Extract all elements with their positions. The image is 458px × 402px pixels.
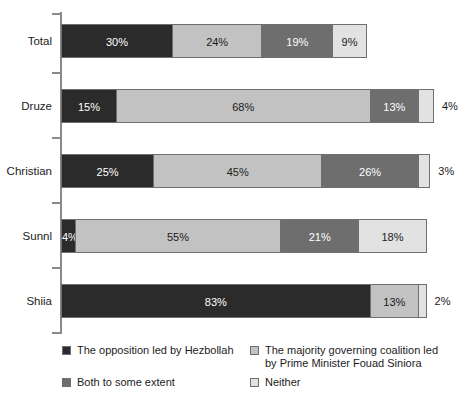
bar-segment: 21% <box>281 219 359 253</box>
bar-segment-value: 18% <box>359 220 425 253</box>
bar-segment: 55% <box>76 219 281 253</box>
chart-legend: The opposition led by HezbollahThe major… <box>0 340 458 402</box>
bar-segment-value: 26% <box>322 155 418 188</box>
bar-track: 4%55%21%18% <box>61 219 427 253</box>
bar-segment-value-outside: 2% <box>435 284 451 318</box>
legend-item-label: Both to some extent <box>77 376 175 389</box>
y-axis-tick-0 <box>52 13 61 15</box>
y-axis-tick-5 <box>52 332 61 334</box>
category-label-shiia: Shiia <box>0 284 52 318</box>
bar-segment-value-outside: 4% <box>442 89 458 123</box>
legend-item[interactable]: The opposition led by Hezbollah <box>62 344 242 357</box>
bar-segment-value: 24% <box>173 25 262 58</box>
bar-segment-value: 4% <box>62 220 75 253</box>
bar-segment-value: 13% <box>371 90 418 123</box>
y-axis-tick-3 <box>52 202 61 204</box>
bar-segment-value: 68% <box>117 90 370 123</box>
bar-track: 30%24%19%9% <box>61 24 367 58</box>
bar-segment: 45% <box>154 154 322 188</box>
bar-segment-value: 30% <box>62 25 172 58</box>
bar-segment: 4% <box>61 219 76 253</box>
bar-segment <box>419 89 434 123</box>
category-label-total: Total <box>0 24 52 58</box>
bar-row: Druze15%68%13%4% <box>0 89 458 123</box>
bar-segment-value: 21% <box>281 220 358 253</box>
stacked-bar-chart: Total30%24%19%9%Druze15%68%13%4%Christia… <box>0 0 458 402</box>
bar-segment-value-outside: 3% <box>438 154 454 188</box>
bar-segment: 30% <box>61 24 173 58</box>
bar-segment: 24% <box>173 24 263 58</box>
legend-swatch-majority <box>250 346 259 355</box>
plot-area: Total30%24%19%9%Druze15%68%13%4%Christia… <box>0 0 458 340</box>
legend-item-label: The opposition led by Hezbollah <box>77 344 234 357</box>
legend-swatch-neither <box>250 378 259 387</box>
bar-segment-value: 19% <box>262 25 332 58</box>
category-label-druze: Druze <box>0 89 52 123</box>
legend-swatch-opposition <box>62 346 71 355</box>
bar-segment: 83% <box>61 284 371 318</box>
bar-track: 25%45%26%3% <box>61 154 430 188</box>
bar-segment: 19% <box>262 24 333 58</box>
bar-track: 83%13%2% <box>61 284 427 318</box>
bar-row: Sunnl4%55%21%18% <box>0 219 458 253</box>
bar-segment-value: 45% <box>154 155 321 188</box>
bar-segment: 68% <box>117 89 371 123</box>
legend-item[interactable]: Neither <box>250 376 450 389</box>
bar-segment: 18% <box>359 219 426 253</box>
legend-item[interactable]: The majority governing coalition led by … <box>250 344 450 370</box>
bar-segment-value: 15% <box>62 90 116 123</box>
legend-item-label: Neither <box>265 376 300 389</box>
bar-segment-value: 9% <box>333 25 366 58</box>
y-axis-tick-1 <box>52 72 61 74</box>
bar-row: Christian25%45%26%3% <box>0 154 458 188</box>
y-axis-tick-4 <box>52 267 61 269</box>
bar-segment: 13% <box>371 89 419 123</box>
bar-segment-value: 13% <box>371 285 418 318</box>
category-label-christian: Christian <box>0 154 52 188</box>
category-label-sunnl: Sunnl <box>0 219 52 253</box>
bar-segment: 15% <box>61 89 117 123</box>
bar-row: Shiia83%13%2% <box>0 284 458 318</box>
bar-segment: 25% <box>61 154 154 188</box>
legend-item-label: The majority governing coalition led by … <box>265 344 450 370</box>
bar-segment: 9% <box>333 24 367 58</box>
bar-segment: 13% <box>371 284 419 318</box>
bar-row: Total30%24%19%9% <box>0 24 458 58</box>
bar-segment: 26% <box>322 154 419 188</box>
bar-segment <box>419 154 430 188</box>
bar-segment-value: 83% <box>62 285 370 318</box>
bar-segment <box>419 284 426 318</box>
bar-track: 15%68%13%4% <box>61 89 434 123</box>
legend-item[interactable]: Both to some extent <box>62 376 242 389</box>
bar-segment-value: 55% <box>76 220 280 253</box>
legend-swatch-both <box>62 378 71 387</box>
y-axis-tick-2 <box>52 137 61 139</box>
bar-segment-value: 25% <box>62 155 153 188</box>
